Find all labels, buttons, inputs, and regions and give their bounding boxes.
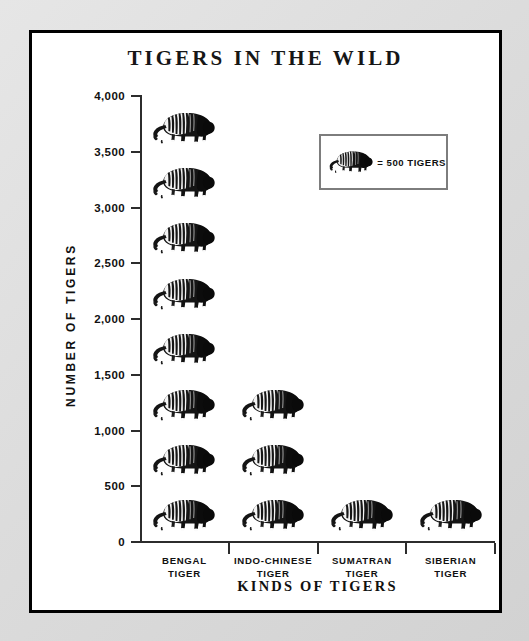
- x-axis-category-label: SUMATRANTIGER: [313, 555, 410, 580]
- category-label-line1: SUMATRAN: [313, 555, 410, 568]
- tiger-icon: [326, 144, 376, 180]
- category-label-line1: INDO-CHINESE: [225, 555, 322, 568]
- tiger-icon-slot: [148, 100, 220, 155]
- x-axis-separator: [494, 543, 496, 554]
- plot-area: 05001,0001,5002,0002,5003,0003,5004,000 …: [32, 33, 505, 616]
- x-axis-separator: [405, 543, 407, 554]
- category-label-line2: TIGER: [136, 568, 233, 581]
- y-axis-tick-label: 0: [32, 536, 125, 548]
- legend: = 500 TIGERS: [319, 134, 448, 190]
- x-axis-separator: [228, 543, 230, 554]
- y-axis-tick-label: 1,500: [32, 369, 125, 381]
- category-label-line2: TIGER: [225, 568, 322, 581]
- tiger-icon-slot: [148, 211, 220, 266]
- tiger-icon: [415, 494, 487, 536]
- tiger-icon: [148, 384, 220, 426]
- tiger-icon: [148, 162, 220, 204]
- tiger-icon-stack: [318, 488, 407, 543]
- tiger-icon: [237, 494, 309, 536]
- tiger-icon-slot: [148, 488, 220, 543]
- tiger-icon: [326, 494, 398, 536]
- tiger-icon: [148, 107, 220, 149]
- y-axis-tick-label: 2,500: [32, 257, 125, 269]
- category-label-line2: TIGER: [313, 568, 410, 581]
- tiger-icon-slot: [326, 488, 398, 543]
- x-axis-category-label: SIBERIANTIGER: [402, 555, 499, 580]
- pictograph-column: BENGALTIGER: [140, 95, 229, 543]
- tiger-icon-slot: [148, 432, 220, 487]
- pictograph-column: INDO-CHINESETIGER: [229, 95, 318, 543]
- y-axis-tick-label: 3,500: [32, 146, 125, 158]
- tiger-icon-slot: [148, 266, 220, 321]
- tiger-icon-slot: [237, 488, 309, 543]
- y-axis-title: NUMBER OF TIGERS: [64, 220, 78, 430]
- chart-card: TIGERS IN THE WILD 05001,0001,5002,0002,…: [29, 30, 502, 613]
- x-axis-title: KINDS OF TIGERS: [140, 578, 495, 595]
- x-axis-category-label: INDO-CHINESETIGER: [225, 555, 322, 580]
- tiger-icon-slot: [148, 377, 220, 432]
- tiger-icon: [237, 384, 309, 426]
- category-label-line2: TIGER: [402, 568, 499, 581]
- category-label-line1: SIBERIAN: [402, 555, 499, 568]
- tiger-icon-slot: [148, 321, 220, 376]
- y-axis-tick-label: 2,000: [32, 313, 125, 325]
- tiger-icon: [148, 217, 220, 259]
- tiger-icon-slot: [148, 155, 220, 210]
- tiger-icon: [148, 328, 220, 370]
- y-axis-tick-label: 1,000: [32, 425, 125, 437]
- tiger-icon: [237, 439, 309, 481]
- category-label-line1: BENGAL: [136, 555, 233, 568]
- tiger-icon-stack: [229, 377, 318, 543]
- y-axis-tick-label: 4,000: [32, 90, 125, 102]
- tiger-icon-slot: [237, 377, 309, 432]
- x-axis-category-label: BENGALTIGER: [136, 555, 233, 580]
- tiger-icon: [148, 273, 220, 315]
- legend-label: = 500 TIGERS: [377, 157, 446, 168]
- x-axis-separator: [317, 543, 319, 554]
- tiger-icon-stack: [406, 488, 495, 543]
- screenshot-background: TIGERS IN THE WILD 05001,0001,5002,0002,…: [0, 0, 529, 641]
- tiger-icon-slot: [237, 432, 309, 487]
- tiger-icon: [148, 439, 220, 481]
- y-axis-tick-label: 3,000: [32, 202, 125, 214]
- tiger-icon: [148, 494, 220, 536]
- tiger-icon-slot: [415, 488, 487, 543]
- y-axis-tick-label: 500: [32, 480, 125, 492]
- tiger-icon-stack: [140, 100, 229, 543]
